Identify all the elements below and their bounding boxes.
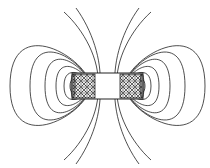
right-winding (120, 74, 142, 98)
solenoid-field-diagram (0, 0, 210, 168)
solenoid (71, 73, 144, 99)
left-winding (73, 74, 95, 98)
